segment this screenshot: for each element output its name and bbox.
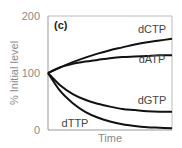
- series-labels: dCTPdATPdGTPdTTP: [62, 23, 167, 129]
- series-label-dctp: dCTP: [138, 23, 166, 35]
- x-axis-label: Time: [98, 132, 122, 144]
- y-axis-label: % Initial level: [8, 41, 20, 105]
- series-label-dttp: dTTP: [62, 117, 89, 129]
- y-tick-200: 200: [22, 10, 40, 22]
- panel-label: (c): [54, 19, 68, 31]
- y-tick-100: 100: [22, 67, 40, 79]
- series-label-datp: dATP: [139, 53, 166, 65]
- line-chart: 0 100 200 % Initial level Time (c) dCTPd…: [0, 0, 182, 148]
- series-label-dgtp: dGTP: [138, 94, 167, 106]
- y-tick-0: 0: [34, 124, 40, 136]
